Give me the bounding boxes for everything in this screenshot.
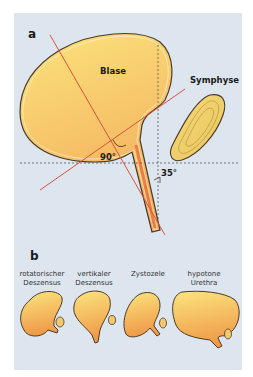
urethra-angle-arc — [154, 177, 160, 183]
caption-line: Deszensus — [72, 279, 116, 288]
caption-line: hypotone — [184, 270, 224, 279]
variant-caption: vertikaler Deszensus — [72, 270, 116, 288]
variant-caption: rotatorischer Deszensus — [18, 270, 66, 288]
bladder-label: Blase — [100, 66, 126, 76]
panel-a-letter: a — [28, 27, 36, 41]
caption-line: Deszensus — [18, 279, 66, 288]
caption-line: Urethra — [184, 279, 224, 288]
variant-caption: hypotone Urethra — [184, 270, 224, 288]
posterior-angle-label: 90° — [100, 152, 116, 162]
urethra — [136, 145, 155, 228]
variant-hypotonic-urethra-shape — [173, 291, 240, 348]
variant-vertical-descensus-shape — [74, 291, 116, 343]
variant-rotatory-descensus-shape — [21, 292, 64, 337]
variant-caption: Zystozele — [128, 270, 168, 279]
urethra-angle-label: 35° — [161, 168, 177, 178]
caption-line: vertikaler — [72, 270, 116, 279]
anatomy-diagram — [0, 0, 253, 377]
symphysis-label: Symphyse — [190, 75, 239, 85]
caption-line: rotatorischer — [18, 270, 66, 279]
caption-line: Zystozele — [128, 270, 168, 279]
symphysis-shape — [170, 95, 224, 161]
panel-b-letter: b — [30, 249, 39, 263]
variant-cystocele-shape — [124, 292, 167, 336]
